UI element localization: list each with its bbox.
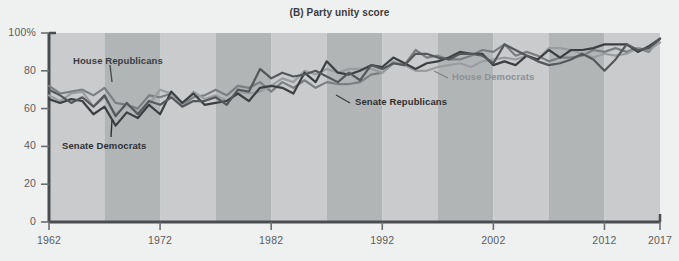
series-label-senate-republicans: Senate Republicans — [355, 96, 447, 107]
plot-area — [0, 0, 679, 261]
x-tick-label: 1992 — [357, 234, 407, 246]
x-tick-label: 1962 — [24, 234, 74, 246]
y-tick-label: 80 — [0, 64, 36, 76]
x-tick-label: 2002 — [468, 234, 518, 246]
series-label-house-democrats: House Democrats — [452, 71, 534, 82]
x-tick-label: 1982 — [246, 234, 296, 246]
series-label-house-republicans: House Republicans — [73, 55, 163, 66]
y-tick-label: 60 — [0, 102, 36, 114]
x-tick-label: 2012 — [579, 234, 629, 246]
y-tick-label: 20 — [0, 177, 36, 189]
series-label-senate-democrats: Senate Democrats — [62, 140, 147, 151]
x-tick-label: 1972 — [135, 234, 185, 246]
background-band — [216, 33, 272, 222]
background-band — [271, 33, 327, 222]
y-tick-label: 0 — [0, 215, 36, 227]
background-band — [160, 33, 216, 222]
chart-figure: (B) Party unity score 020406080100% 1962… — [0, 0, 679, 261]
y-tick-label: 40 — [0, 139, 36, 151]
y-tick-label: 100% — [0, 26, 36, 38]
background-band — [327, 33, 383, 222]
x-tick-label: 2017 — [635, 234, 679, 246]
